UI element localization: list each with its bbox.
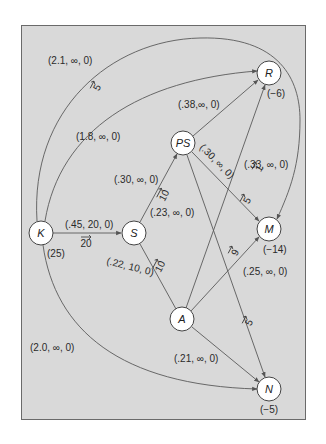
node-a: A [170,307,194,331]
svg-text:M: M [264,223,274,235]
svg-text:N: N [265,383,273,395]
demand-r: (−6) [267,88,285,99]
params-ps-m: (.30, ∞, 0) [198,142,237,181]
params-ps-r: (.38,∞, 0) [178,99,220,110]
node-m: M [257,217,281,241]
flow-k-s: 20 [80,235,92,249]
flow-a-m: 9 [226,245,241,258]
params-a-n: (.21, ∞, 0) [174,353,218,364]
flow-ps-n: 5 [240,315,255,328]
node-r: R [257,61,281,85]
flow-k-r: 5 [88,80,103,93]
svg-text:R: R [265,67,273,79]
node-ps: PS [171,131,195,155]
params-a-r: (.33, ∞, 0) [244,159,288,170]
svg-text:A: A [177,313,185,325]
node-n: N [257,377,281,401]
params-k-s: (.45, 20, 0) [65,219,113,230]
svg-text:20: 20 [80,238,92,249]
params-k-n: (2.0, ∞, 0) [30,342,74,353]
demand-n: (−5) [260,404,278,415]
svg-text:10: 10 [152,258,167,273]
edge-s-a [140,244,176,309]
svg-text:S: S [130,227,138,239]
supply-k: (25) [47,248,65,259]
node-s: S [122,221,146,245]
params-ps-n: (.23, ∞, 0) [150,207,194,218]
flow-ps-m: 5 [238,193,253,206]
params-s-ps: (.30, ∞, 0) [114,174,158,185]
params-k-m: (2.1, ∞, 0) [48,55,92,66]
network-diagram: K S PS R M A N (25) (−6) (−14) (−5) (2.1… [0,0,326,444]
flow-s-ps: 10 [155,187,172,203]
params-a-m: (.25, ∞, 0) [243,266,287,277]
node-k: K [29,221,53,245]
svg-text:PS: PS [176,137,191,149]
svg-text:10: 10 [156,187,171,202]
demand-m: (−14) [263,244,287,255]
params-k-r: (1.8, ∞, 0) [76,131,120,142]
svg-text:K: K [37,227,45,239]
